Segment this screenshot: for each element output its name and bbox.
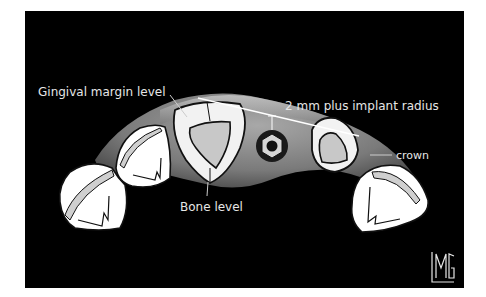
- lmg-logo: [432, 252, 454, 282]
- tooth-left-molar: [60, 164, 127, 230]
- tooth-right-molar: [352, 165, 428, 232]
- gingival-margin-label: Gingival margin level: [38, 85, 165, 99]
- crown-label: crown: [396, 149, 429, 162]
- bone-level-label: Bone level: [180, 200, 243, 214]
- dental-arch-diagram: Gingival margin level 2 mm plus implant …: [0, 0, 486, 297]
- implant-distance-label: 2 mm plus implant radius: [285, 99, 439, 113]
